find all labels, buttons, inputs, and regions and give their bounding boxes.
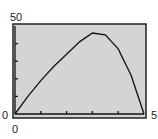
plot-frame xyxy=(13,24,146,118)
plot-area xyxy=(0,0,158,139)
